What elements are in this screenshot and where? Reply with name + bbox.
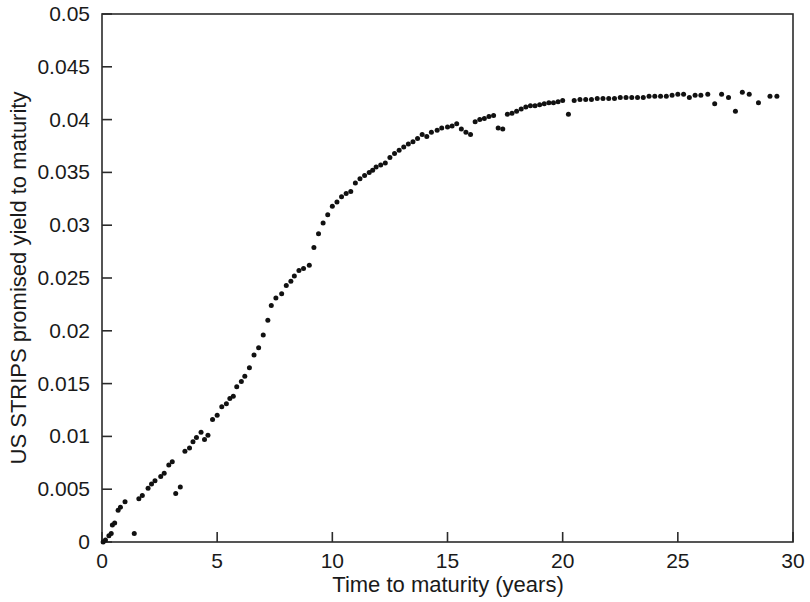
data-point — [681, 92, 686, 97]
y-tick-label: 0.04 — [49, 108, 90, 131]
data-point — [112, 520, 117, 525]
data-point — [486, 114, 491, 119]
data-point — [109, 531, 114, 536]
data-point — [767, 94, 772, 99]
data-point — [279, 291, 284, 296]
data-point — [311, 245, 316, 250]
data-point — [756, 100, 761, 105]
data-point — [537, 102, 542, 107]
data-point — [132, 531, 137, 536]
y-tick-label: 0.03 — [49, 213, 90, 236]
data-point — [439, 126, 444, 131]
data-point — [629, 95, 634, 100]
data-point — [296, 268, 301, 273]
data-point — [459, 127, 464, 132]
data-point — [612, 96, 617, 101]
data-point — [344, 191, 349, 196]
data-point — [635, 95, 640, 100]
data-point — [239, 379, 244, 384]
data-point — [747, 92, 752, 97]
data-point — [178, 485, 183, 490]
data-point — [330, 204, 335, 209]
data-point — [468, 132, 473, 137]
data-point — [556, 99, 561, 104]
data-point — [383, 160, 388, 165]
data-point — [519, 107, 524, 112]
data-point — [292, 273, 297, 278]
data-point — [533, 103, 538, 108]
data-point — [288, 279, 293, 284]
data-point — [353, 180, 358, 185]
data-point — [242, 374, 247, 379]
data-point — [774, 94, 779, 99]
data-point — [362, 173, 367, 178]
data-point — [523, 104, 528, 109]
data-point — [406, 141, 411, 146]
x-tick-label: 30 — [781, 549, 804, 572]
data-point — [726, 95, 731, 100]
data-point — [357, 176, 362, 181]
data-point — [670, 93, 675, 98]
x-tick-label: 10 — [321, 549, 344, 572]
data-point — [546, 100, 551, 105]
data-point — [477, 117, 482, 122]
data-point — [325, 212, 330, 217]
data-point — [194, 435, 199, 440]
data-point — [698, 93, 703, 98]
y-tick-label: 0.015 — [37, 372, 90, 395]
data-point — [401, 145, 406, 150]
data-point — [606, 96, 611, 101]
data-point — [589, 97, 594, 102]
x-tick-label: 5 — [211, 549, 223, 572]
data-point — [687, 95, 692, 100]
data-point — [572, 98, 577, 103]
data-point — [190, 439, 195, 444]
x-axis-label: Time to maturity (years) — [332, 572, 563, 597]
data-point — [445, 124, 450, 129]
y-axis-label: US STRIPS promised yield to maturity — [6, 92, 31, 465]
data-point — [496, 126, 501, 131]
data-point — [705, 92, 710, 97]
x-tick-label: 15 — [436, 549, 459, 572]
data-point — [182, 449, 187, 454]
data-point — [410, 139, 415, 144]
data-point — [652, 94, 657, 99]
data-point — [146, 486, 151, 491]
data-point — [103, 537, 108, 542]
data-point — [187, 446, 192, 451]
data-point — [269, 303, 274, 308]
data-point — [339, 194, 344, 199]
data-point — [301, 266, 306, 271]
data-point — [219, 404, 224, 409]
y-tick-label: 0.02 — [49, 319, 90, 342]
data-point — [284, 283, 289, 288]
data-point — [583, 97, 588, 102]
data-point — [595, 96, 600, 101]
data-point — [210, 417, 215, 422]
y-tick-label: 0.005 — [37, 477, 90, 500]
data-point — [316, 231, 321, 236]
data-point — [256, 345, 261, 350]
data-point — [215, 413, 220, 418]
data-point — [500, 127, 505, 132]
data-point — [334, 199, 339, 204]
data-point — [261, 333, 266, 338]
data-point — [397, 148, 402, 153]
chart-background — [0, 0, 810, 602]
data-point — [505, 112, 510, 117]
data-point — [491, 113, 496, 118]
data-point — [664, 94, 669, 99]
scatter-plot: 00.0050.010.0150.020.0250.030.0350.040.0… — [0, 0, 810, 602]
data-point — [162, 471, 167, 476]
data-point — [205, 433, 210, 438]
data-point — [265, 318, 270, 323]
data-point — [173, 491, 178, 496]
data-point — [140, 493, 145, 498]
y-tick-label: 0.045 — [37, 55, 90, 78]
data-point — [600, 96, 605, 101]
data-point — [429, 130, 434, 135]
data-point — [234, 384, 239, 389]
data-point — [641, 95, 646, 100]
data-point — [514, 109, 519, 114]
data-point — [435, 128, 440, 133]
